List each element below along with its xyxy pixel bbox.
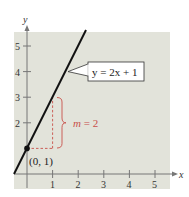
- x-tick-5: 5: [152, 179, 157, 190]
- y-tick-3: 3: [15, 92, 20, 103]
- x-axis-arrow-icon: [172, 172, 178, 177]
- y-axis-label: y: [22, 14, 28, 25]
- point-label: (0, 1): [29, 155, 53, 168]
- x-tick-3: 3: [101, 179, 106, 190]
- x-tick-2: 2: [76, 179, 81, 190]
- x-axis-label: x: [178, 169, 184, 180]
- y-tick-2: 2: [15, 118, 20, 129]
- slope-label: m = 2: [73, 117, 98, 129]
- y-tick-5: 5: [15, 41, 20, 52]
- point-0-1: [24, 146, 30, 152]
- x-tick-4: 4: [127, 179, 132, 190]
- equation-label: y = 2x + 1: [92, 66, 137, 78]
- chart: x y 1 2 3 4 5 2 3 4 5 m = 2 (0, 1): [0, 0, 189, 197]
- y-axis-arrow-icon: [25, 25, 30, 31]
- y-tick-4: 4: [15, 67, 20, 78]
- x-tick-1: 1: [50, 179, 55, 190]
